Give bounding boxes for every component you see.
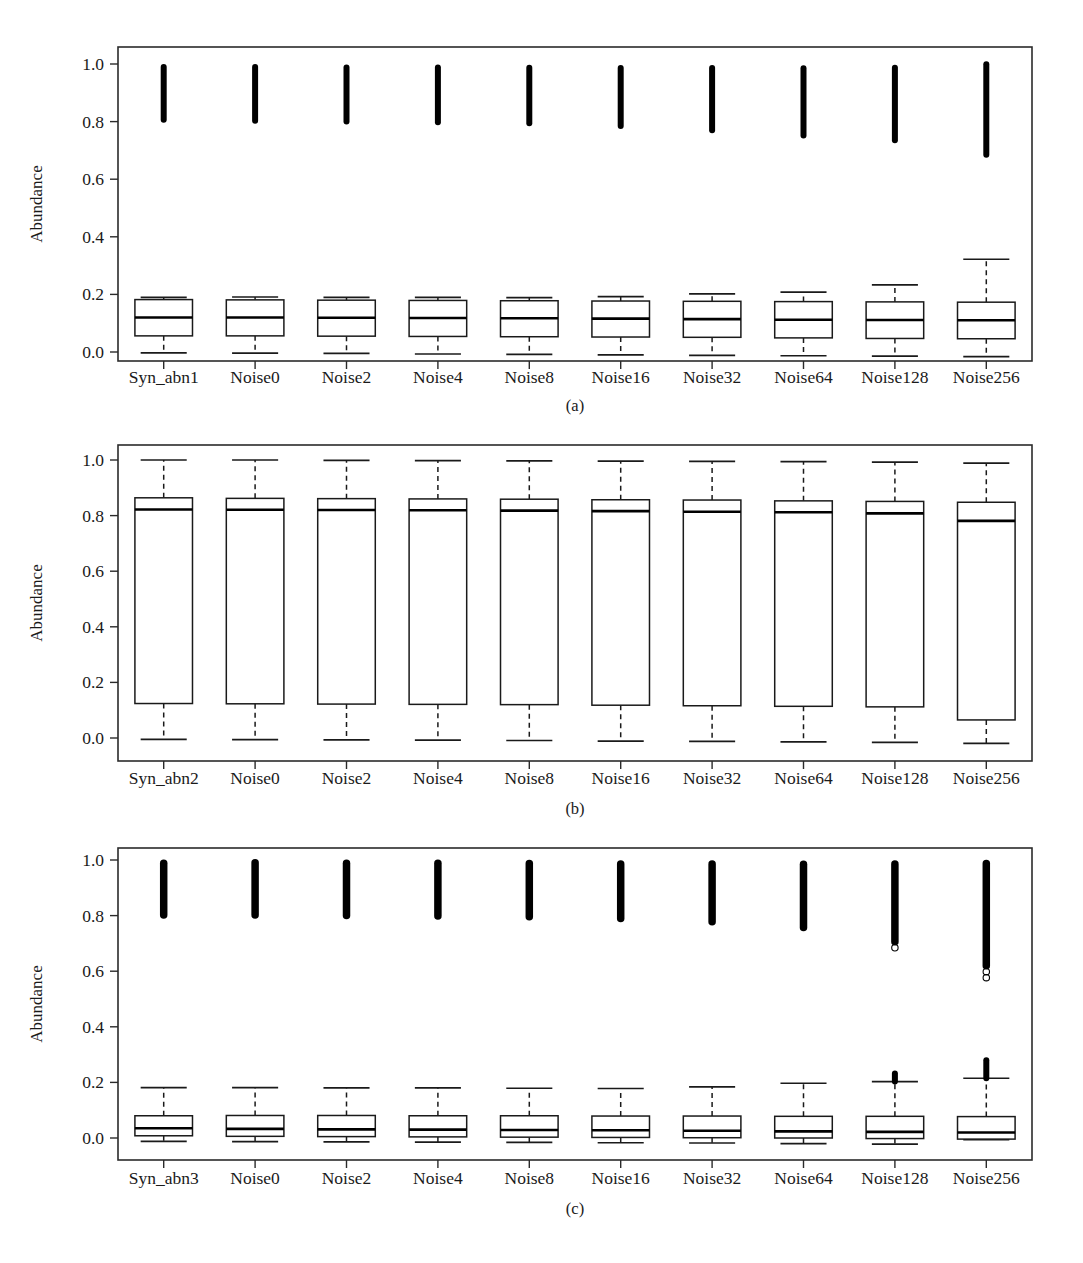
boxplot-item: [318, 67, 376, 353]
boxplot-item: [409, 67, 467, 354]
x-tick-label-Noise128: Noise128: [861, 768, 928, 788]
y-axis-title: Abundance: [27, 965, 46, 1042]
panel-caption-a: (a): [566, 396, 584, 415]
y-tick-label: 0.6: [82, 561, 104, 581]
boxplot-item: [866, 864, 924, 1144]
x-tick-label-Noise16: Noise16: [592, 768, 651, 788]
boxplot-item: [409, 863, 467, 1142]
box-iqr: [135, 498, 193, 704]
boxplot-item: [135, 67, 193, 353]
box-iqr: [775, 1116, 833, 1138]
panel-a: 0.00.20.40.60.81.0AbundanceSyn_abn1Noise…: [0, 0, 1083, 420]
y-tick-label: 0.0: [82, 1128, 104, 1148]
x-tick-label-Noise128: Noise128: [861, 367, 928, 387]
boxplot-item: [409, 461, 467, 741]
panel-b: 0.00.20.40.60.81.0AbundanceSyn_abn2Noise…: [0, 420, 1083, 840]
boxplot-item: [775, 864, 833, 1143]
outlier-point: [983, 974, 989, 980]
x-tick-label-Noise64: Noise64: [774, 1168, 833, 1188]
y-tick-label: 0.4: [82, 1017, 104, 1037]
boxplot-item: [318, 863, 376, 1142]
boxplot-item: [592, 864, 650, 1143]
x-tick-label-Noise256: Noise256: [953, 1168, 1020, 1188]
y-tick-label: 0.6: [82, 169, 104, 189]
y-tick-label: 0.8: [82, 112, 104, 132]
boxplot-item: [501, 68, 559, 355]
x-tick-label-Noise2: Noise2: [322, 1168, 372, 1188]
boxplot-item: [866, 68, 924, 356]
x-tick-label-Noise256: Noise256: [953, 367, 1020, 387]
x-tick-label-Noise8: Noise8: [505, 367, 555, 387]
y-tick-label: 0.8: [82, 906, 104, 926]
y-tick-label: 0.4: [82, 617, 104, 637]
boxplot-item: [775, 68, 833, 355]
box-iqr: [683, 1116, 741, 1138]
boxplot-figure: 0.00.20.40.60.81.0AbundanceSyn_abn1Noise…: [0, 0, 1083, 1263]
y-tick-label: 1.0: [82, 450, 104, 470]
boxplot-item: [226, 67, 284, 353]
y-tick-label: 0.2: [82, 1072, 104, 1092]
x-tick-label-Noise0: Noise0: [230, 367, 280, 387]
box-iqr: [501, 1116, 559, 1137]
box-iqr: [592, 1116, 650, 1137]
boxplot-item: [958, 864, 1016, 1140]
box-iqr: [683, 500, 741, 706]
panel-caption-b: (b): [565, 799, 584, 818]
box-iqr: [592, 500, 650, 705]
boxplot-item: [592, 461, 650, 741]
boxplot-item: [683, 864, 741, 1143]
y-axis-title: Abundance: [27, 165, 46, 242]
boxplot-item: [226, 460, 284, 740]
panel-plot-c: 0.00.20.40.60.81.0AbundanceSyn_abn3Noise…: [0, 840, 1083, 1263]
y-tick-label: 0.0: [82, 728, 104, 748]
box-iqr: [135, 1116, 193, 1136]
box-iqr: [409, 499, 467, 704]
box-iqr: [226, 1115, 284, 1136]
y-tick-label: 0.2: [82, 284, 104, 304]
box-iqr: [958, 1117, 1016, 1140]
box-iqr: [866, 501, 924, 706]
outlier-point: [892, 945, 898, 951]
boxplot-item: [318, 460, 376, 740]
box-iqr: [501, 499, 559, 704]
x-tick-label-Noise16: Noise16: [592, 1168, 651, 1188]
x-tick-label-Noise8: Noise8: [505, 768, 555, 788]
x-tick-label-Noise32: Noise32: [683, 768, 741, 788]
x-tick-label-Noise8: Noise8: [505, 1168, 555, 1188]
box-iqr: [958, 502, 1016, 720]
x-tick-label-Noise0: Noise0: [230, 1168, 280, 1188]
y-tick-label: 1.0: [82, 850, 104, 870]
x-tick-label-Noise64: Noise64: [774, 367, 833, 387]
x-tick-label-Noise2: Noise2: [322, 367, 372, 387]
boxplot-item: [683, 461, 741, 741]
x-tick-label-Syn_abn2: Syn_abn2: [129, 768, 199, 788]
box-iqr: [775, 501, 833, 706]
y-tick-label: 0.2: [82, 672, 104, 692]
x-tick-label-Syn_abn3: Syn_abn3: [129, 1168, 199, 1188]
x-tick-label-Noise4: Noise4: [413, 768, 463, 788]
x-tick-label-Noise16: Noise16: [592, 367, 651, 387]
boxplot-item: [775, 462, 833, 742]
boxplot-item: [501, 461, 559, 741]
panel-caption-c: (c): [566, 1199, 584, 1218]
boxplot-item: [958, 64, 1016, 356]
boxplot-item: [866, 462, 924, 742]
panel-plot-a: 0.00.20.40.60.81.0AbundanceSyn_abn1Noise…: [0, 0, 1083, 420]
x-tick-label-Noise0: Noise0: [230, 768, 280, 788]
x-tick-label-Noise128: Noise128: [861, 1168, 928, 1188]
x-tick-label-Noise32: Noise32: [683, 1168, 741, 1188]
outlier-point: [983, 968, 989, 974]
boxplot-item: [501, 864, 559, 1143]
boxplot-item: [592, 68, 650, 355]
x-tick-label-Noise4: Noise4: [413, 367, 463, 387]
x-tick-label-Syn_abn1: Syn_abn1: [129, 367, 199, 387]
boxplot-item: [135, 460, 193, 739]
box-iqr: [318, 1115, 376, 1136]
y-tick-label: 0.8: [82, 506, 104, 526]
x-tick-label-Noise32: Noise32: [683, 367, 741, 387]
boxplot-item: [683, 68, 741, 355]
panel-c: 0.00.20.40.60.81.0AbundanceSyn_abn3Noise…: [0, 840, 1083, 1263]
y-axis-title: Abundance: [27, 564, 46, 641]
boxplot-item: [958, 463, 1016, 743]
boxplot-item: [135, 863, 193, 1141]
